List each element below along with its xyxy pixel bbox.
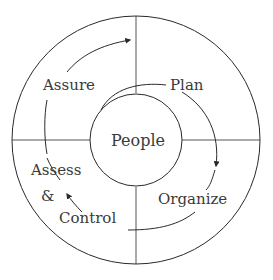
arc-start-to-plan [101,84,166,110]
arc-assure-to-top-arrow [67,40,130,72]
stage-label-organize: Organize [158,192,227,207]
arc-organize-to-control [128,212,195,230]
stage-label-assess: Assess [31,163,82,178]
stage-label-plan: Plan [170,78,204,93]
arc-to-organize [206,170,215,190]
stage-label-assure: Assure [43,78,95,93]
arc-plan-to-organize-arrow [182,92,217,166]
center-label-people: People [111,133,165,149]
arc-assess-to-assure [45,100,47,154]
stage-label-ampersand: & [41,189,54,204]
stage-label-control: Control [59,211,116,226]
